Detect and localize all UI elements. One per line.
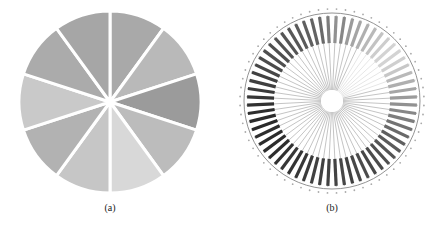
tick-label: [422, 114, 424, 116]
tick-label: [248, 61, 250, 63]
tick-label: [362, 13, 364, 15]
radial-bar: [247, 104, 274, 105]
pie-chart: [0, 0, 223, 205]
radial-bar: [371, 144, 389, 164]
tick-label: [248, 139, 250, 141]
radial-bar: [248, 89, 275, 93]
tick-label: [318, 191, 320, 193]
radial-bar: [264, 50, 286, 66]
panel-b: (b): [223, 0, 447, 230]
tick-label: [240, 87, 242, 89]
radial-bar: [375, 140, 395, 158]
caption-b: (b): [312, 202, 352, 213]
radial-bar: [389, 89, 416, 93]
radial-bar: [250, 80, 276, 87]
tick-label: [242, 78, 244, 80]
radial-bar: [281, 148, 297, 170]
radial-bar: [328, 16, 329, 43]
tick-label: [252, 147, 254, 149]
radial-bar: [388, 115, 414, 122]
radial-bar: [379, 50, 401, 66]
tick-label: [327, 8, 329, 10]
tick-label: [244, 69, 246, 71]
tick-label: [422, 87, 424, 89]
radial-bar: [250, 115, 276, 122]
radial-bar: [371, 38, 389, 58]
tick-label: [257, 155, 259, 157]
radial-bar: [335, 16, 336, 43]
radial-bar: [264, 136, 286, 152]
tick-label: [414, 61, 416, 63]
radial-bar: [248, 110, 275, 114]
radial-bar: [269, 140, 289, 158]
tick-label: [240, 114, 242, 116]
tick-label: [423, 105, 425, 107]
tick-label: [353, 11, 355, 13]
tick-label: [269, 168, 271, 170]
tick-label: [393, 168, 395, 170]
tick-label: [418, 69, 420, 71]
radial-bar: [335, 159, 336, 186]
tick-label: [336, 8, 338, 10]
radial-bar: [341, 158, 345, 185]
tick-label: [284, 21, 286, 23]
tick-label: [414, 139, 416, 141]
tick-label: [263, 162, 265, 164]
tick-label: [386, 174, 388, 176]
tick-label: [292, 183, 294, 185]
radial-bar: [388, 80, 414, 87]
tick-label: [252, 53, 254, 55]
tick-label: [239, 96, 241, 98]
tick-label: [244, 131, 246, 133]
tick-label: [399, 162, 401, 164]
tick-label: [263, 38, 265, 40]
tick-label: [405, 155, 407, 157]
radial-bar: [247, 97, 274, 98]
tick-label: [269, 32, 271, 34]
tick-label: [362, 187, 364, 189]
radial-bar: [390, 104, 417, 105]
radial-bar: [390, 97, 417, 98]
tick-label: [309, 11, 311, 13]
tick-label: [410, 53, 412, 55]
radial-bar: [379, 136, 401, 152]
radial-bar: [367, 148, 383, 170]
tick-label: [300, 13, 302, 15]
radial-bar: [311, 157, 318, 183]
radial-bar: [320, 17, 324, 44]
radial-bar: [275, 144, 293, 164]
tick-label: [405, 45, 407, 47]
tick-label: [423, 96, 425, 98]
tick-label: [345, 9, 347, 11]
radial-bar: [346, 157, 353, 183]
radial-bar: [389, 110, 416, 114]
tick-label: [370, 17, 372, 19]
tick-label: [284, 179, 286, 181]
tick-label: [420, 122, 422, 124]
tick-label: [378, 179, 380, 181]
radial-bar: [311, 19, 318, 45]
tick-label: [276, 26, 278, 28]
radial-bar: [341, 17, 345, 44]
radial-bar: [375, 44, 395, 62]
radial-bar: [281, 33, 297, 55]
radial-bar: [367, 33, 383, 55]
inner-circle: [321, 90, 343, 112]
radial-bar: [275, 38, 293, 58]
radial-bar: [269, 44, 289, 62]
tick-label: [300, 187, 302, 189]
radial-bar: [320, 158, 324, 185]
tick-label: [292, 17, 294, 19]
tick-label: [386, 26, 388, 28]
tick-label: [257, 45, 259, 47]
tick-label: [410, 147, 412, 149]
tick-label: [242, 122, 244, 124]
tick-label: [276, 174, 278, 176]
tick-label: [345, 191, 347, 193]
tick-label: [420, 78, 422, 80]
caption-a: (a): [90, 202, 130, 213]
tick-label: [318, 9, 320, 11]
tick-label: [378, 21, 380, 23]
tick-label: [309, 189, 311, 191]
tick-label: [327, 192, 329, 194]
